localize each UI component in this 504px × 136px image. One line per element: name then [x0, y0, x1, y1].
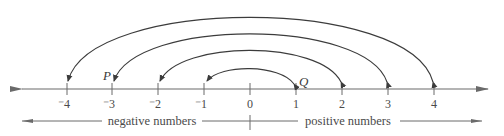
tick-label-neg2: ⁻2 — [149, 97, 161, 111]
arc-3-to-neg3 — [114, 34, 387, 82]
arc-4-to-neg4 — [68, 17, 433, 82]
sign-region-indicator: negative numbers positive numbers — [22, 114, 482, 130]
tick-label-neg3: ⁻3 — [103, 97, 115, 111]
tick-label-3: 3 — [385, 97, 391, 111]
tick-label-1: 1 — [293, 97, 299, 111]
point-label-p: P — [102, 68, 111, 83]
arc-2-to-neg2 — [160, 50, 341, 82]
tick-label-4: 4 — [431, 97, 437, 111]
arc-1-to-neg1 — [207, 69, 294, 84]
number-line-diagram: ⁻4 ⁻3 ⁻2 ⁻1 0 1 2 3 4 P Q negative numbe… — [0, 0, 504, 136]
reflection-arcs — [68, 17, 433, 84]
point-label-q: Q — [299, 74, 309, 89]
positive-numbers-label: positive numbers — [305, 114, 391, 128]
negative-numbers-label: negative numbers — [108, 114, 197, 128]
tick-label-neg4: ⁻4 — [58, 97, 70, 111]
tick-labels: ⁻4 ⁻3 ⁻2 ⁻1 0 1 2 3 4 — [58, 97, 437, 111]
tick-label-0: 0 — [247, 97, 253, 111]
tick-label-neg1: ⁻1 — [195, 97, 207, 111]
tick-label-2: 2 — [339, 97, 345, 111]
